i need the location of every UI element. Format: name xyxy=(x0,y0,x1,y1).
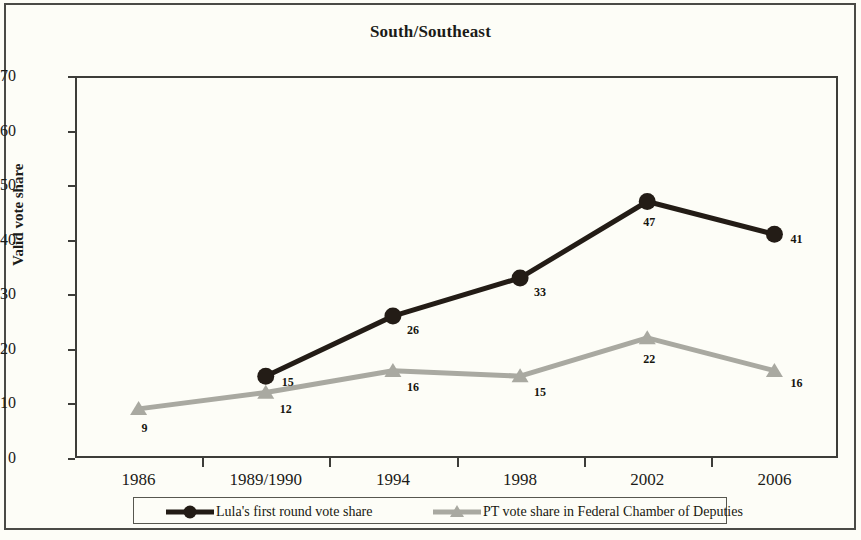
y-tick-mark xyxy=(68,240,75,242)
data-point-circle xyxy=(639,193,656,210)
chart-title: South/Southeast xyxy=(0,22,861,42)
y-tick-mark xyxy=(68,185,75,187)
x-tick-label: 1998 xyxy=(450,470,590,490)
x-tick-mark xyxy=(202,458,204,467)
series-line xyxy=(139,338,775,409)
data-point-label: 26 xyxy=(407,323,419,338)
data-point-label: 12 xyxy=(280,401,292,416)
data-point-label: 33 xyxy=(534,284,546,299)
y-tick-label: 0 xyxy=(0,449,16,467)
legend-label-pt: PT vote share in Federal Chamber of Depu… xyxy=(483,504,743,520)
figure-canvas: South/Southeast Valid vote share 1986198… xyxy=(0,0,861,540)
legend-swatch-triangle-gray xyxy=(431,501,483,523)
data-point-circle xyxy=(257,368,274,385)
x-tick-label: 2006 xyxy=(704,470,844,490)
data-point-label: 16 xyxy=(407,379,419,394)
x-tick-mark xyxy=(457,458,459,467)
y-tick-label: 20 xyxy=(0,340,16,358)
data-point-label: 16 xyxy=(790,375,802,390)
x-tick-mark xyxy=(584,458,586,467)
y-tick-mark xyxy=(68,458,75,460)
y-tick-label: 60 xyxy=(0,122,16,140)
data-point-label: 47 xyxy=(643,214,655,229)
y-tick-mark xyxy=(68,349,75,351)
y-tick-mark xyxy=(68,294,75,296)
data-point-label: 9 xyxy=(142,420,148,435)
x-tick-mark xyxy=(711,458,713,467)
legend-label-lula: Lula's first round vote share xyxy=(216,504,372,520)
x-tick-label: 2002 xyxy=(577,470,717,490)
data-point-circle xyxy=(384,308,401,325)
y-tick-label: 40 xyxy=(0,231,16,249)
y-tick-mark xyxy=(68,403,75,405)
data-point-label: 15 xyxy=(282,375,294,390)
x-tick-label: 1986 xyxy=(69,470,209,490)
legend-swatch-circle-black xyxy=(164,501,216,523)
y-tick-mark xyxy=(68,131,75,133)
x-tick-label: 1989/1990 xyxy=(196,470,336,490)
x-tick-label: 1994 xyxy=(323,470,463,490)
series-lines xyxy=(75,76,838,458)
data-point-label: 41 xyxy=(790,232,802,247)
y-tick-mark xyxy=(68,76,75,78)
y-tick-label: 50 xyxy=(0,176,16,194)
data-point-circle xyxy=(766,226,783,243)
y-tick-label: 10 xyxy=(0,394,16,412)
y-tick-label: 30 xyxy=(0,285,16,303)
data-point-circle xyxy=(512,269,529,286)
legend-item-pt: PT vote share in Federal Chamber of Depu… xyxy=(431,498,743,525)
y-tick-label: 70 xyxy=(0,67,16,85)
plot-area: 19861989/1990199419982002200691216152216… xyxy=(75,76,838,458)
chart-legend: Lula's first round vote share PT vote sh… xyxy=(133,497,727,524)
data-point-label: 15 xyxy=(534,385,546,400)
legend-item-lula: Lula's first round vote share xyxy=(164,498,372,525)
x-tick-mark xyxy=(329,458,331,467)
data-point-label: 22 xyxy=(643,351,655,366)
